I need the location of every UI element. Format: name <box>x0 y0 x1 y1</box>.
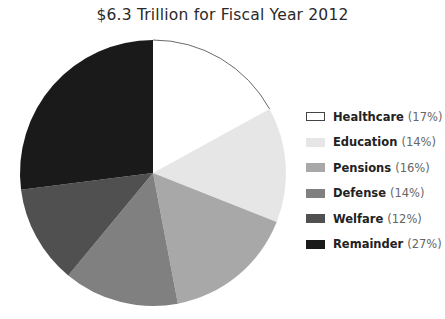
legend-swatch <box>306 189 325 198</box>
legend-item-defense: Defense (14%) <box>306 181 442 207</box>
legend-item-education: Education (14%) <box>306 130 442 156</box>
pie-slice-remainder <box>20 40 153 190</box>
legend-item-remainder: Remainder (27%) <box>306 232 442 258</box>
legend-swatch <box>306 240 325 249</box>
legend-item-healthcare: Healthcare (17%) <box>306 104 442 130</box>
legend-swatch <box>306 138 325 147</box>
legend-item-welfare: Welfare (12%) <box>306 206 442 232</box>
legend: Healthcare (17%) Education (14%) Pension… <box>306 104 442 257</box>
legend-swatch <box>306 163 325 172</box>
legend-item-pensions: Pensions (16%) <box>306 155 442 181</box>
legend-swatch <box>306 112 325 121</box>
legend-swatch <box>306 214 325 223</box>
